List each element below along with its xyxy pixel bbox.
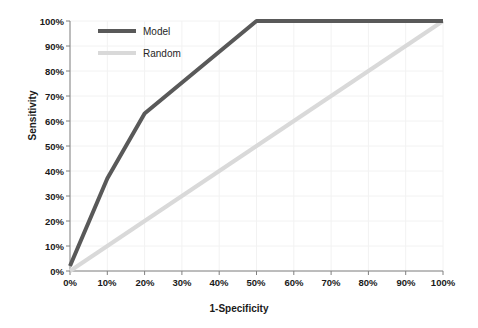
chart-legend: Model Random bbox=[98, 20, 228, 64]
legend-item-model: Model bbox=[98, 20, 228, 42]
legend-swatch-random bbox=[98, 51, 136, 55]
roc-curve-chart: Sensitivity 1-Specificity 100% 90% 80% 7… bbox=[0, 0, 478, 328]
legend-item-random: Random bbox=[98, 42, 228, 64]
legend-label-random: Random bbox=[143, 48, 181, 59]
legend-swatch-model bbox=[98, 29, 136, 33]
legend-label-model: Model bbox=[143, 26, 170, 37]
plot-area bbox=[0, 0, 478, 328]
